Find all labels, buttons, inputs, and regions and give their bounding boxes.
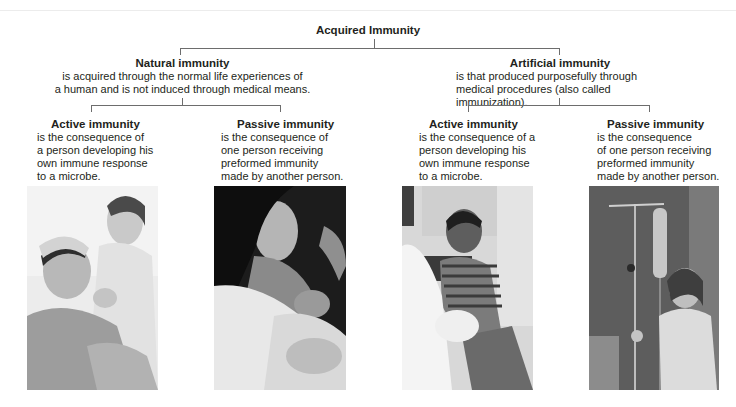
artificial-passive-desc-2: of one person receiving <box>597 144 736 157</box>
artificial-active-desc-3: own immune response <box>419 157 569 170</box>
artificial-active-heading: Active immunity <box>419 118 569 131</box>
artificial-active-desc-1: is the consequence of a <box>419 131 569 144</box>
artificial-passive-desc-4: made by another person. <box>597 170 736 183</box>
connector-root-stem <box>374 39 375 48</box>
child-with-fever-caregiver-photo <box>27 186 158 390</box>
natural-passive-desc-1: is the consequence of <box>221 131 371 144</box>
natural-passive-desc-3: preformed immunity <box>221 157 371 170</box>
artificial-passive-desc-1: is the consequence <box>597 131 736 144</box>
natural-immunity-node: Natural immunity is acquired through the… <box>40 57 325 96</box>
natural-passive-desc-4: made by another person. <box>221 170 371 183</box>
connector-artificial-stem <box>559 98 560 105</box>
connector-natural-stem <box>182 98 183 105</box>
natural-active-heading: Active immunity <box>37 118 187 131</box>
connector-natural-active-drop <box>91 105 92 112</box>
artificial-passive-desc-3: preformed immunity <box>597 157 736 170</box>
connector-artificial-drop <box>559 48 560 55</box>
artificial-active-desc-4: to a microbe. <box>419 170 569 183</box>
natural-active-desc-3: own immune response <box>37 157 187 170</box>
connector-root-bar <box>180 48 560 49</box>
artificial-immunity-node: Artificial immunity is that produced pur… <box>440 57 680 109</box>
child-receiving-vaccination-photo <box>402 186 533 390</box>
connector-natural-passive-drop <box>280 105 281 112</box>
diagram-title: Acquired Immunity <box>0 24 736 36</box>
natural-passive-desc-2: one person receiving <box>221 144 371 157</box>
natural-active-desc-4: to a microbe. <box>37 170 187 183</box>
natural-passive-heading: Passive immunity <box>221 118 371 131</box>
mother-breastfeeding-infant-photo <box>214 186 346 390</box>
artificial-active-node: Active immunity is the consequence of a … <box>419 118 569 183</box>
natural-active-desc-1: is the consequence of <box>37 131 187 144</box>
natural-immunity-heading: Natural immunity <box>40 57 325 70</box>
connector-artificial-active-drop <box>468 105 469 112</box>
artificial-passive-heading: Passive immunity <box>597 118 736 131</box>
natural-immunity-desc-1: is acquired through the normal life expe… <box>40 70 325 83</box>
natural-passive-node: Passive immunity is the consequence of o… <box>221 118 371 183</box>
connector-artificial-bar <box>468 105 650 106</box>
natural-active-desc-2: a person developing his <box>37 144 187 157</box>
artificial-passive-node: Passive immunity is the consequence of o… <box>597 118 736 183</box>
natural-active-node: Active immunity is the consequence of a … <box>37 118 187 183</box>
artificial-active-desc-2: person developing his <box>419 144 569 157</box>
artificial-immunity-heading: Artificial immunity <box>440 57 680 70</box>
child-with-iv-drip-photo <box>589 186 719 390</box>
natural-immunity-desc-2: a human and is not induced through medic… <box>40 83 325 96</box>
connector-natural-bar <box>91 105 281 106</box>
connector-natural-drop <box>180 48 181 55</box>
artificial-immunity-desc-1: is that produced purposefully through <box>440 70 680 83</box>
top-divider <box>0 10 736 11</box>
connector-artificial-passive-drop <box>649 105 650 112</box>
